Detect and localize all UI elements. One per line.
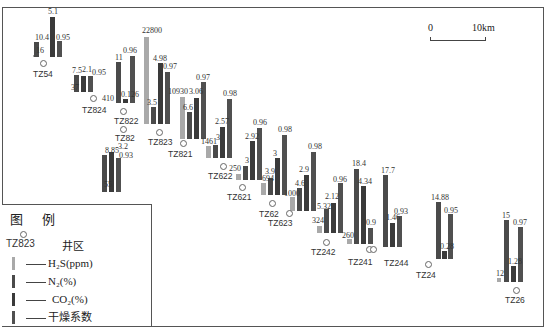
bar-dry-TZ824 — [88, 76, 93, 92]
well-marker-icon — [425, 261, 432, 268]
label-h2s-TZ26: 12 — [496, 270, 504, 278]
well-marker-icon — [120, 108, 127, 115]
well-name-TZ824: TZ824 — [82, 106, 107, 115]
label-n2-TZ823: 3.5 — [147, 99, 157, 107]
label-dry-TZ823: 0.97 — [163, 63, 177, 71]
well-name-TZ26: TZ26 — [505, 296, 525, 305]
well-name-TZ823: TZ823 — [148, 138, 173, 147]
label-co2-TZ242: 2.12 — [325, 193, 339, 201]
bar-dry-TZ242 — [338, 183, 343, 233]
bar-dry-TZ54 — [57, 41, 62, 57]
well-name-TZ623: TZ623 — [268, 219, 293, 228]
bar-h2s-TZ242 — [317, 226, 322, 233]
label-h2s-TZ62: 694 — [262, 175, 274, 183]
bar-co2-TZ621 — [250, 141, 255, 180]
label-dry-TZ26: 0.97 — [513, 219, 527, 227]
bar-co2-TZ242 — [331, 203, 336, 233]
bar-co2-TZ24 — [442, 251, 447, 259]
legend-line — [26, 318, 46, 319]
well-name-TZ822: TZ822 — [114, 117, 139, 126]
label-dry-TZ244: 0.93 — [394, 208, 408, 216]
label-n2-TZ54: 10.4 — [35, 34, 49, 42]
bar-dry-TZ823 — [165, 72, 170, 124]
bar-co2-TZ54 — [50, 17, 55, 57]
label-n2-TZ82: 8.85 — [105, 147, 119, 155]
bar-h2s-TZ622 — [206, 146, 211, 158]
label-h2s-TZ823: 22800 — [142, 27, 162, 35]
well-name-TZ54: TZ54 — [33, 70, 53, 79]
well-name-TZ242: TZ242 — [311, 248, 336, 257]
scale-start-label: 0 — [428, 22, 433, 33]
well-marker-icon — [239, 184, 246, 191]
label-n2-TZ622: 3 — [216, 134, 220, 142]
label-co2-TZ82: 3.2 — [118, 143, 128, 151]
well-marker-icon — [286, 210, 293, 217]
label-h2s-TZ623: 1000 — [284, 190, 300, 198]
label-dry-TZ24: 0.95 — [444, 207, 458, 215]
bar-dry-TZ241 — [368, 228, 373, 244]
legend-well-area-text: 井区 — [62, 237, 84, 253]
label-h2s-TZ821: 10930 — [168, 88, 188, 96]
bar-co2-TZ824 — [81, 76, 86, 92]
co2-swatch-icon — [12, 293, 15, 306]
label-dry-TZ621: 0.96 — [253, 119, 267, 127]
label-co2-TZ241: 4.34 — [358, 178, 372, 186]
label-dry-TZ62: 0.98 — [278, 126, 292, 134]
label-dry-TZ622: 0.98 — [223, 90, 237, 98]
label-co2-TZ621: 2.92 — [245, 133, 259, 141]
bar-co2-TZ62 — [275, 158, 280, 195]
bar-dry-TZ622 — [227, 99, 232, 158]
n2-swatch-icon — [12, 275, 15, 288]
label-h2s-TZ241: 260 — [342, 232, 354, 240]
well-name-TZ244: TZ244 — [384, 259, 409, 268]
well-marker-icon — [269, 200, 276, 207]
well-name-TZ821: TZ821 — [168, 150, 193, 159]
label-dry-TZ824: 0.95 — [92, 69, 106, 77]
label-co2-TZ623: 2.9 — [299, 166, 309, 174]
bar-dry-TZ62 — [282, 135, 287, 195]
label-dry-TZ82: 0.93 — [119, 152, 133, 160]
bar-h2s-TZ823 — [144, 37, 149, 124]
bar-n2-TZ242 — [324, 209, 329, 233]
legend-line — [26, 282, 46, 283]
well-marker-icon — [120, 126, 127, 133]
label-dry-TZ822: 0.96 — [123, 47, 137, 55]
label-h2s-TZ621: 250 — [229, 165, 241, 173]
label-h2s-TZ622: 1461 — [201, 138, 217, 146]
label-h2s-TZ822: 410 — [102, 95, 114, 103]
bar-dry-TZ24 — [448, 214, 453, 259]
label-n2-TZ822: 11 — [115, 54, 123, 62]
legend-label-h2s: H₂S(ppm) — [48, 257, 93, 270]
label-co2-TZ824: 2.1 — [82, 66, 92, 74]
label-n2-TZ824: 7.5 — [72, 67, 82, 75]
well-name-TZ24: TZ24 — [416, 271, 436, 280]
well-name-TZ621: TZ621 — [227, 193, 252, 202]
label-n2-TZ241: 18.4 — [352, 160, 366, 168]
bar-co2-TZ822 — [123, 99, 128, 103]
bar-co2-TZ821 — [194, 98, 199, 139]
legend-label-dry: 干燥系数 — [48, 311, 92, 324]
well-marker-icon — [323, 239, 330, 246]
bar-n2-TZ621 — [243, 166, 248, 180]
well-marker-icon — [220, 163, 227, 170]
dry-swatch-icon — [12, 311, 15, 324]
well-marker-icon — [40, 60, 47, 67]
bar-n2-TZ821 — [187, 112, 192, 139]
label-dry-TZ54: 0.95 — [56, 34, 70, 42]
bar-co2-TZ26 — [511, 266, 516, 282]
label-n2-TZ24: 14.88 — [431, 194, 449, 202]
label-dry-TZ623: 0.98 — [308, 143, 322, 151]
legend-line — [26, 264, 46, 265]
legend-title: 图 例 — [10, 209, 63, 228]
bar-h2s-TZ26 — [497, 278, 501, 282]
bar-h2s-TZ621 — [236, 174, 241, 180]
bar-n2-TZ26 — [504, 220, 509, 282]
label-n2-TZ242: 5.32 — [317, 203, 331, 211]
bar-n2-TZ622 — [213, 145, 218, 158]
label-co2-TZ54: 5.1 — [48, 8, 58, 16]
scale-bar: 0 10km — [428, 22, 488, 42]
legend-label-co2: CO₂(%) — [52, 293, 88, 306]
label-n2-TZ623: 4.6 — [295, 180, 305, 188]
label-dry-TZ241: 0.9 — [366, 219, 376, 227]
label-h2s-TZ824: 37 — [71, 84, 79, 92]
